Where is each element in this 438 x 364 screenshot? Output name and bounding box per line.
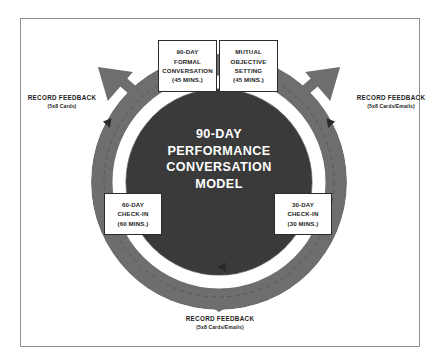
feedback-label-bottom-subtitle: (5x8 Cards/Emails) xyxy=(176,323,264,332)
stage-box-sixty-line-1: 60-DAY xyxy=(122,200,144,209)
center-title-line-3: CONVERSATION xyxy=(137,159,301,176)
feedback-label-left-title: RECORD FEEDBACK xyxy=(22,93,102,102)
feedback-label-bottom-title: RECORD FEEDBACK xyxy=(176,314,264,323)
stage-box-thirty-day-check-in[interactable]: 30-DAY CHECK-IN (30 MINS.) xyxy=(274,193,332,235)
stage-box-formal-line-1: 90-DAY xyxy=(176,47,198,56)
stage-box-sixty-line-3: (60 MINS.) xyxy=(118,219,149,228)
stage-box-sixty-day-check-in[interactable]: 60-DAY CHECK-IN (60 MINS.) xyxy=(104,193,162,235)
stage-box-thirty-line-1: 30-DAY xyxy=(292,200,314,209)
center-title-line-2: PERFORMANCE xyxy=(137,143,301,160)
diagram-page: 90-DAY PERFORMANCE CONVERSATION MODEL 90… xyxy=(0,0,438,364)
center-title-line-4: MODEL xyxy=(137,176,301,193)
stage-box-sixty-line-2: CHECK-IN xyxy=(118,209,149,218)
stage-box-mutual-line-4: (45 MINS.) xyxy=(233,75,264,84)
stage-box-formal-conversation[interactable]: 90-DAY FORMAL CONVERSATION (45 MINS.) xyxy=(158,40,217,92)
center-title: 90-DAY PERFORMANCE CONVERSATION MODEL xyxy=(137,126,301,192)
feedback-label-right-subtitle: (5x8 Cards/Emails) xyxy=(348,102,434,111)
center-title-line-1: 90-DAY xyxy=(137,126,301,143)
feedback-label-bottom: RECORD FEEDBACK (5x8 Cards/Emails) xyxy=(176,314,264,332)
stage-box-formal-line-3: CONVERSATION xyxy=(162,66,212,75)
stage-box-thirty-line-3: (30 MINS.) xyxy=(288,219,319,228)
feedback-label-left: RECORD FEEDBACK (5x8 Cards) xyxy=(22,93,102,111)
feedback-label-right-title: RECORD FEEDBACK xyxy=(348,93,434,102)
stage-box-mutual-line-2: OBJECTIVE xyxy=(231,57,267,66)
stage-box-mutual-line-1: MUTUAL xyxy=(235,47,262,56)
feedback-label-left-subtitle: (5x8 Cards) xyxy=(22,102,102,111)
stage-box-mutual-line-3: SETTING xyxy=(235,66,262,75)
stage-box-thirty-line-2: CHECK-IN xyxy=(288,209,319,218)
feedback-label-right: RECORD FEEDBACK (5x8 Cards/Emails) xyxy=(348,93,434,111)
stage-box-formal-line-2: FORMAL xyxy=(174,57,201,66)
stage-box-formal-line-4: (45 MINS.) xyxy=(172,75,203,84)
stage-box-mutual-objective-setting[interactable]: MUTUAL OBJECTIVE SETTING (45 MINS.) xyxy=(219,40,278,92)
